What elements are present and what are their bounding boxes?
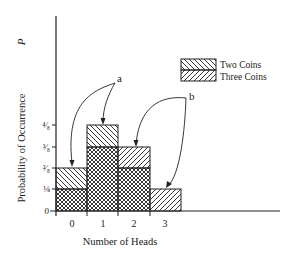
bar-0-two-coins bbox=[56, 168, 87, 189]
annotation-a: a bbox=[117, 72, 122, 84]
legend-swatch-three-coins bbox=[181, 70, 216, 81]
x-tick-0: 0 bbox=[70, 218, 75, 229]
legend-label-two-coins: Two Coins bbox=[220, 60, 262, 70]
legend-swatch-two-coins bbox=[181, 59, 216, 70]
bar-2-overlap bbox=[118, 168, 150, 211]
legend-label-three-coins: Three Coins bbox=[220, 72, 267, 82]
bar-1-two-coins bbox=[87, 125, 118, 147]
y-tick-3: ³⁄₈ bbox=[43, 142, 50, 152]
bar-3-three-coins bbox=[150, 189, 181, 211]
y-axis-symbol: P bbox=[15, 38, 27, 46]
probability-histogram: 0 ⅛ ²⁄₈ ³⁄₈ ⁴⁄₈ 0 1 2 3 Number of Heads … bbox=[0, 0, 289, 254]
x-tick-3: 3 bbox=[163, 218, 168, 229]
x-tick-1: 1 bbox=[101, 218, 106, 229]
x-tick-2: 2 bbox=[132, 218, 137, 229]
bars bbox=[56, 125, 181, 211]
x-axis-title: Number of Heads bbox=[83, 236, 158, 247]
y-tick-2: ²⁄₈ bbox=[43, 163, 50, 173]
y-tick-1: ⅛ bbox=[43, 184, 50, 194]
y-tick-labels: 0 ⅛ ²⁄₈ ³⁄₈ ⁴⁄₈ bbox=[42, 120, 50, 216]
x-tick-labels: 0 1 2 3 bbox=[70, 218, 168, 229]
bar-0-overlap bbox=[56, 189, 87, 211]
bar-1-overlap bbox=[87, 147, 118, 211]
legend: Two Coins Three Coins bbox=[181, 59, 267, 82]
y-tick-4: ⁴⁄₈ bbox=[42, 120, 50, 130]
y-tick-0: 0 bbox=[45, 206, 50, 216]
bar-2-three-coins bbox=[118, 147, 150, 168]
annotation-b: b bbox=[189, 90, 195, 102]
y-axis-title: Probability of Occurrence bbox=[16, 93, 27, 202]
